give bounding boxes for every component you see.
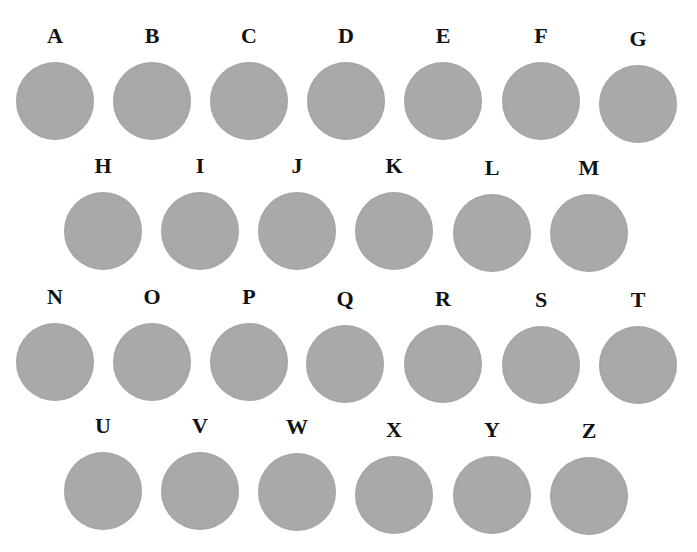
circle-item: I — [160, 154, 240, 274]
circle-item: N — [15, 285, 95, 405]
circle-item: W — [257, 415, 337, 535]
circle-label: B — [112, 24, 192, 48]
circle-label: F — [501, 24, 581, 48]
circle-label: U — [63, 414, 143, 438]
gray-circle — [502, 326, 580, 404]
circle-item: T — [598, 288, 678, 408]
circle-label: K — [354, 154, 434, 178]
gray-circle — [355, 456, 433, 534]
gray-circle — [258, 453, 336, 531]
gray-circle — [210, 62, 288, 140]
circle-item: L — [452, 156, 532, 276]
circle-item: O — [112, 285, 192, 405]
circle-item: V — [160, 414, 240, 534]
circle-item: E — [403, 24, 483, 144]
circle-item: F — [501, 24, 581, 144]
circle-label: X — [354, 418, 434, 442]
gray-circle — [550, 194, 628, 272]
circle-item: Y — [452, 418, 532, 538]
circle-label: V — [160, 414, 240, 438]
gray-circle — [16, 62, 94, 140]
circle-label: M — [549, 156, 629, 180]
circle-label: P — [209, 285, 289, 309]
gray-circle — [355, 192, 433, 270]
circle-label: S — [501, 288, 581, 312]
circle-item: M — [549, 156, 629, 276]
gray-circle — [64, 192, 142, 270]
circle-label: C — [209, 24, 289, 48]
gray-circle — [113, 323, 191, 401]
gray-circle — [210, 323, 288, 401]
circle-label: N — [15, 285, 95, 309]
circle-item: C — [209, 24, 289, 144]
circle-label: H — [63, 154, 143, 178]
circle-item: Z — [549, 419, 629, 539]
circle-label: Z — [549, 419, 629, 443]
circle-item: U — [63, 414, 143, 534]
circle-item: D — [306, 24, 386, 144]
circle-item: J — [257, 154, 337, 274]
gray-circle — [404, 62, 482, 140]
gray-circle — [258, 192, 336, 270]
circle-item: S — [501, 288, 581, 408]
gray-circle — [161, 192, 239, 270]
circle-label: D — [306, 24, 386, 48]
circle-label: G — [598, 27, 678, 51]
gray-circle — [404, 325, 482, 403]
gray-circle — [161, 452, 239, 530]
gray-circle — [453, 456, 531, 534]
circle-label: I — [160, 154, 240, 178]
circle-label: E — [403, 24, 483, 48]
circle-item: G — [598, 27, 678, 147]
circle-label: Q — [305, 287, 385, 311]
gray-circle — [453, 194, 531, 272]
circle-item: K — [354, 154, 434, 274]
circle-item: A — [15, 24, 95, 144]
circle-item: B — [112, 24, 192, 144]
circle-item: H — [63, 154, 143, 274]
circle-label: R — [403, 287, 483, 311]
circle-item: Q — [305, 287, 385, 407]
circle-label: Y — [452, 418, 532, 442]
gray-circle — [113, 62, 191, 140]
circle-grid: ABCDEFGHIJKLMNOPQRSTUVWXYZ — [0, 0, 697, 552]
gray-circle — [306, 325, 384, 403]
circle-label: J — [257, 154, 337, 178]
circle-label: L — [452, 156, 532, 180]
circle-label: W — [257, 415, 337, 439]
gray-circle — [64, 452, 142, 530]
circle-item: X — [354, 418, 434, 538]
gray-circle — [599, 326, 677, 404]
gray-circle — [550, 457, 628, 535]
gray-circle — [16, 323, 94, 401]
circle-item: R — [403, 287, 483, 407]
gray-circle — [599, 65, 677, 143]
gray-circle — [307, 62, 385, 140]
circle-label: O — [112, 285, 192, 309]
circle-label: A — [15, 24, 95, 48]
gray-circle — [502, 62, 580, 140]
circle-label: T — [598, 288, 678, 312]
circle-item: P — [209, 285, 289, 405]
